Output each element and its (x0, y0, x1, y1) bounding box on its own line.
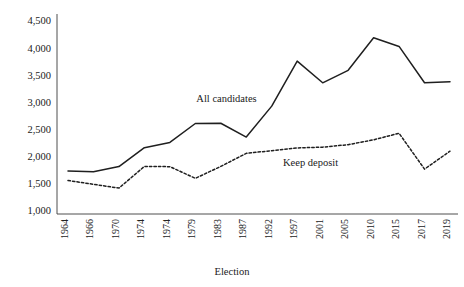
series-annotations: All candidatesKeep deposit (196, 93, 338, 168)
x-axis-title: Election (215, 266, 251, 277)
x-tick-label: 1983 (212, 219, 223, 239)
data-series-group (68, 38, 450, 188)
y-tick-label: 4,500 (27, 15, 51, 26)
x-tick-label: 2017 (416, 219, 427, 239)
x-axis-tick-labels: 1964196619701974197419791983198719921997… (59, 219, 452, 239)
series-label-all-candidates: All candidates (196, 93, 256, 104)
x-tick-label: 1966 (84, 219, 95, 239)
chart-figure: 1,0001,5002,0002,5003,0003,5004,0004,500… (0, 0, 464, 287)
y-tick-label: 2,500 (27, 124, 51, 135)
y-tick-label: 1,500 (27, 178, 51, 189)
x-tick-label: 2005 (339, 219, 350, 239)
x-tick-label: 2001 (314, 219, 325, 239)
x-tick-label: 1997 (288, 219, 299, 239)
x-tick-label: 1974 (135, 219, 146, 239)
y-tick-label: 1,000 (27, 205, 51, 216)
election-candidates-line-chart: 1,0001,5002,0002,5003,0003,5004,0004,500… (0, 0, 464, 287)
x-tick-label: 2010 (365, 219, 376, 239)
x-tick-label: 1964 (59, 219, 70, 239)
x-tick-label: 2015 (390, 219, 401, 239)
plot-axes (57, 14, 458, 214)
x-tick-label: 1987 (237, 219, 248, 239)
y-tick-label: 3,000 (27, 97, 51, 108)
x-tick-label: 1979 (186, 219, 197, 239)
y-tick-label: 3,500 (27, 70, 51, 81)
series-label-keep-deposit: Keep deposit (283, 157, 338, 168)
y-tick-label: 4,000 (27, 43, 51, 54)
x-tick-label: 2019 (441, 219, 452, 239)
x-tick-label: 1970 (110, 219, 121, 239)
series-line-keep-deposit (68, 133, 450, 188)
x-tick-label: 1992 (263, 219, 274, 239)
y-axis-tick-labels: 1,0001,5002,0002,5003,0003,5004,0004,500 (27, 15, 51, 216)
y-tick-label: 2,000 (27, 151, 51, 162)
x-tick-label: 1974 (161, 219, 172, 239)
